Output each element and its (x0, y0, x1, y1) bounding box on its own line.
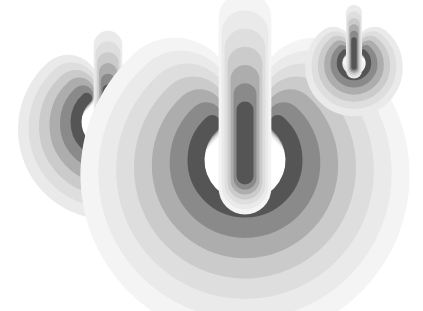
power-icons-illustration (0, 0, 423, 311)
illustration-canvas (0, 0, 423, 311)
power-icon (323, 13, 385, 99)
